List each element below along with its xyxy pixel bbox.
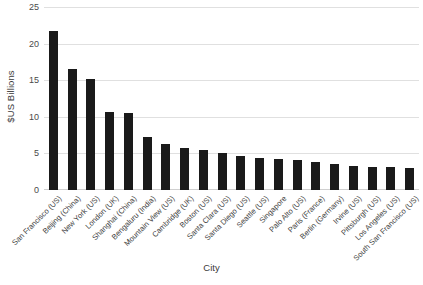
bar [180, 148, 189, 190]
y-axis-tick-2: 10 [29, 112, 39, 122]
bar [349, 166, 358, 190]
bar [368, 167, 377, 190]
bar [293, 160, 302, 190]
x-axis-title: City [0, 262, 423, 273]
bar [199, 150, 208, 190]
x-axis-tick-labels: San Francisco (US)Beijing (China)New Yor… [44, 191, 419, 259]
y-axis-tick-1: 5 [34, 148, 39, 158]
bar [161, 144, 170, 190]
bar-chart: $US Billions 0510152025 San Francisco (U… [0, 0, 423, 285]
bar [236, 156, 245, 190]
y-axis-tick-3: 15 [29, 75, 39, 85]
bar [386, 167, 395, 190]
y-axis-title: $US Billions [0, 0, 20, 192]
bar [274, 159, 283, 190]
y-axis-tick-5: 25 [29, 2, 39, 12]
bar [311, 162, 320, 190]
y-axis-tick-0: 0 [34, 185, 39, 195]
y-axis-tick-labels: 0510152025 [18, 0, 42, 192]
bar [68, 69, 77, 191]
bar [86, 79, 95, 190]
bar [405, 168, 414, 190]
y-axis-title-label: $US Billions [5, 70, 16, 122]
y-axis-tick-4: 20 [29, 39, 39, 49]
bar [143, 137, 152, 190]
bar [255, 158, 264, 190]
bar [49, 31, 58, 190]
bar [218, 153, 227, 190]
bar [330, 164, 339, 190]
bar-series [44, 7, 419, 190]
plot-area [44, 7, 419, 190]
bar [124, 113, 133, 190]
bar [105, 112, 114, 190]
